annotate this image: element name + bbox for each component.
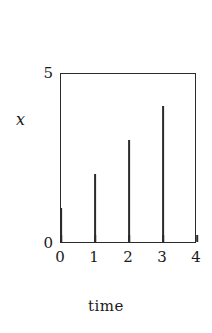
x-axis-tick <box>60 235 62 242</box>
x-axis-tick <box>196 235 198 242</box>
x-axis-title: time <box>0 297 212 315</box>
stem-bar <box>162 106 164 242</box>
figure-canvas: x 5 0 01234 time <box>0 0 212 333</box>
y-axis-title: x <box>16 110 25 129</box>
plot-frame <box>60 73 196 243</box>
x-axis-tick <box>162 235 164 242</box>
x-tick-label-2: 2 <box>118 248 138 266</box>
x-axis-tick <box>128 235 130 242</box>
y-tick-label-5: 5 <box>31 64 53 82</box>
x-tick-label-1: 1 <box>84 248 104 266</box>
x-tick-label-3: 3 <box>152 248 172 266</box>
x-tick-label-4: 4 <box>186 248 206 266</box>
x-tick-label-0: 0 <box>50 248 70 266</box>
x-axis-tick <box>94 235 96 242</box>
stem-bar <box>94 174 96 242</box>
stem-bar <box>128 140 130 242</box>
